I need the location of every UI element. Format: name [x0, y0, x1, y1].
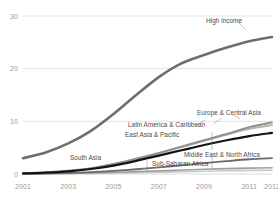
line-chart: 3020100 2001200320052007200920112012 Hig…: [0, 0, 278, 197]
series-label: Sub-Saharan Africa: [152, 161, 208, 167]
series-label: Europe & Central Asia: [197, 110, 261, 116]
chart-plot-area: [0, 0, 278, 197]
series-label: South Asia: [70, 155, 101, 161]
series-line: [23, 37, 272, 158]
x-axis-tick-label: 2009: [191, 183, 217, 190]
series-label: Middle East & North Africa: [184, 152, 260, 158]
series-label: Latin America & Caribbean: [128, 122, 205, 128]
y-axis-tick-label: 10: [2, 118, 18, 125]
x-axis-tick-label: 2003: [55, 183, 81, 190]
leader-lines: [147, 22, 246, 172]
y-axis-tick-label: 20: [2, 65, 18, 72]
y-axis-tick-label: 0: [2, 171, 18, 178]
y-axis-tick-label: 30: [2, 13, 18, 20]
x-axis-tick-label: 2005: [101, 183, 127, 190]
series-label: High income: [206, 18, 242, 24]
x-axis-tick-label: 2007: [146, 183, 172, 190]
x-axis-tick-label: 2001: [10, 183, 36, 190]
series-label: East Asia & Pacific: [125, 132, 179, 138]
x-axis-tick-label: 2012: [259, 183, 278, 190]
